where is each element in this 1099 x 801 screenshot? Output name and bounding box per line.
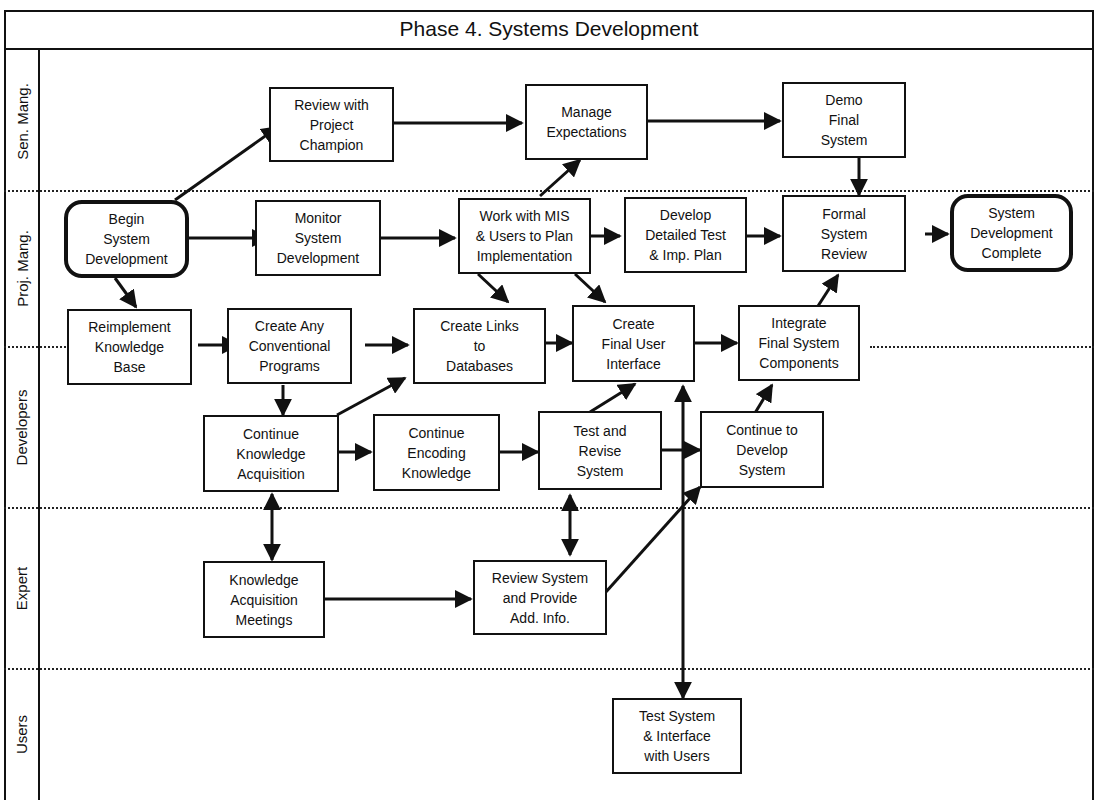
node-review-with-project-champion[interactable]: Review with Project Champion bbox=[269, 87, 394, 162]
node-begin-system-development[interactable]: Begin System Development bbox=[64, 200, 189, 278]
node-label: Integrate Final System Components bbox=[759, 313, 840, 373]
node-continue-knowledge-acquisition[interactable]: Continue Knowledge Acquisition bbox=[203, 415, 339, 492]
node-create-conventional-programs[interactable]: Create Any Conventional Programs bbox=[227, 308, 352, 384]
node-formal-system-review[interactable]: Formal System Review bbox=[782, 195, 906, 272]
node-label: Work with MIS & Users to Plan Implementa… bbox=[476, 206, 573, 266]
node-label: Knowledge Acquisition Meetings bbox=[229, 570, 298, 630]
node-system-development-complete[interactable]: System Development Complete bbox=[950, 194, 1073, 272]
node-reimplement-knowledge-base[interactable]: Reimplement Knowledge Base bbox=[67, 309, 192, 385]
node-label: Create Final User Interface bbox=[602, 314, 666, 374]
node-continue-encoding-knowledge[interactable]: Continue Encoding Knowledge bbox=[373, 414, 500, 491]
node-integrate-final-system-components[interactable]: Integrate Final System Components bbox=[738, 305, 860, 381]
node-knowledge-acquisition-meetings[interactable]: Knowledge Acquisition Meetings bbox=[203, 561, 325, 638]
node-label: Manage Expectations bbox=[546, 102, 626, 142]
node-label: Continue to Develop System bbox=[726, 420, 798, 480]
node-label: Develop Detailed Test & Imp. Plan bbox=[645, 205, 726, 265]
node-develop-detailed-test-plan[interactable]: Develop Detailed Test & Imp. Plan bbox=[624, 197, 747, 273]
node-label: Test System & Interface with Users bbox=[639, 706, 715, 766]
node-label: Test and Revise System bbox=[574, 421, 627, 481]
node-label: Review with Project Champion bbox=[294, 95, 369, 155]
node-label: System Development Complete bbox=[970, 203, 1053, 263]
node-create-links-to-databases[interactable]: Create Links to Databases bbox=[413, 308, 546, 384]
node-label: Continue Encoding Knowledge bbox=[402, 423, 471, 483]
node-label: Demo Final System bbox=[821, 90, 868, 150]
node-label: Create Links to Databases bbox=[440, 316, 519, 376]
node-test-system-with-users[interactable]: Test System & Interface with Users bbox=[612, 698, 742, 774]
node-label: Begin System Development bbox=[85, 209, 168, 269]
node-test-and-revise-system[interactable]: Test and Revise System bbox=[538, 411, 662, 490]
node-label: Formal System Review bbox=[821, 204, 868, 264]
node-demo-final-system[interactable]: Demo Final System bbox=[782, 82, 906, 158]
node-label: Reimplement Knowledge Base bbox=[88, 317, 170, 377]
node-create-final-user-interface[interactable]: Create Final User Interface bbox=[572, 305, 695, 382]
node-monitor-system-development[interactable]: Monitor System Development bbox=[255, 200, 381, 276]
node-work-with-mis-users[interactable]: Work with MIS & Users to Plan Implementa… bbox=[458, 198, 591, 274]
node-label: Review System and Provide Add. Info. bbox=[492, 568, 588, 628]
node-label: Continue Knowledge Acquisition bbox=[236, 424, 305, 484]
node-label: Monitor System Development bbox=[277, 208, 360, 268]
node-continue-to-develop-system[interactable]: Continue to Develop System bbox=[700, 411, 824, 488]
node-label: Create Any Conventional Programs bbox=[249, 316, 331, 376]
node-manage-expectations[interactable]: Manage Expectations bbox=[525, 84, 648, 160]
node-review-system-provide-info[interactable]: Review System and Provide Add. Info. bbox=[473, 560, 607, 635]
